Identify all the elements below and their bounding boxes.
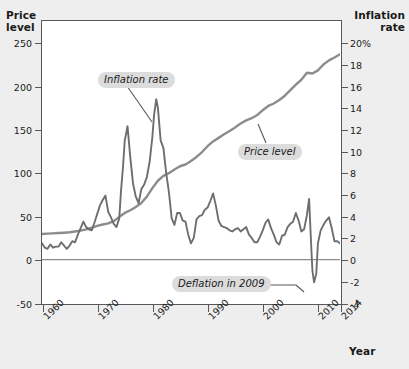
y-tick-right	[342, 130, 348, 131]
y-tick-label-left: 150	[0, 125, 32, 136]
right-axis-title-line2: rate	[349, 21, 405, 33]
x-tick-label: 2014	[339, 297, 364, 322]
y-tick-right	[342, 217, 348, 218]
right-axis-title: Inflation rate	[349, 9, 405, 33]
y-tick-right	[342, 65, 348, 66]
y-tick-right	[342, 173, 348, 174]
y-tick-label-right: 4	[350, 211, 356, 222]
left-axis-title-line1: Price	[6, 9, 36, 21]
right-axis-title-line1: Inflation	[349, 9, 405, 21]
y-tick-label-right: 14	[350, 103, 362, 114]
y-tick-left	[35, 87, 41, 88]
x-axis-title: Year	[349, 345, 375, 357]
annotation-inflation-rate: Inflation rate	[98, 72, 175, 88]
y-tick-right	[342, 108, 348, 109]
y-tick-right	[342, 43, 348, 44]
y-tick-label-left: 0	[0, 255, 32, 266]
inflation-rate-line	[42, 99, 340, 282]
y-tick-right	[342, 195, 348, 196]
left-axis-title: Price level	[6, 9, 36, 33]
y-tick-right	[342, 152, 348, 153]
series-svg	[42, 21, 340, 303]
annotation-deflation-2009: Deflation in 2009	[172, 276, 271, 292]
chart-figure: Price level Inflation rate Year -5005010…	[0, 0, 409, 369]
y-tick-label-left: -50	[0, 298, 32, 309]
y-tick-label-right: 12	[350, 125, 362, 136]
plot-inner	[42, 21, 341, 304]
y-tick-left	[35, 130, 41, 131]
y-tick-left	[35, 43, 41, 44]
y-tick-left	[35, 260, 41, 261]
y-tick-label-left: 250	[0, 38, 32, 49]
y-tick-label-left: 100	[0, 168, 32, 179]
y-tick-right	[342, 238, 348, 239]
y-tick-label-right: 6	[350, 190, 356, 201]
y-tick-label-right: 0	[350, 255, 356, 266]
y-tick-label-left: 200	[0, 81, 32, 92]
left-axis-title-line2: level	[6, 21, 36, 33]
y-tick-label-right: 10	[350, 146, 362, 157]
y-tick-label-right: 18	[350, 59, 362, 70]
y-tick-left	[35, 217, 41, 218]
annotation-price-level: Price level	[238, 144, 302, 160]
y-tick-label-right: 20%	[350, 38, 371, 49]
y-tick-label-left: 50	[0, 211, 32, 222]
y-tick-label-right: 8	[350, 168, 356, 179]
y-tick-label-right: -2	[350, 276, 359, 287]
y-tick-right	[342, 87, 348, 88]
y-tick-left	[35, 173, 41, 174]
y-tick-label-right: 2	[350, 233, 356, 244]
y-tick-right	[342, 282, 348, 283]
y-tick-right	[342, 260, 348, 261]
plot-area	[41, 20, 342, 305]
y-tick-label-right: 16	[350, 81, 362, 92]
y-tick-left	[35, 304, 41, 305]
